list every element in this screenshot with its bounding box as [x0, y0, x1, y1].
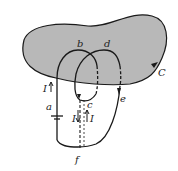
- label-d: d: [104, 38, 110, 49]
- label-e: e: [120, 93, 126, 104]
- arrow-up-mid-icon: [85, 110, 89, 122]
- label-c-curve: C: [158, 67, 166, 78]
- label-b: b: [77, 38, 83, 49]
- label-c-point: c: [87, 99, 93, 110]
- label-current-mid-up: I: [89, 113, 95, 124]
- label-current-left: I: [42, 83, 48, 94]
- label-f: f: [74, 154, 81, 165]
- arrow-down-mid-icon: [76, 110, 80, 122]
- label-a: a: [46, 101, 52, 112]
- ampere-law-diagram: C b d c e a f I I I: [0, 0, 178, 171]
- wire-f-to-a: [57, 140, 78, 147]
- surface-bounded-by-c: [23, 15, 167, 85]
- diagram-canvas: C b d c e a f I I I: [0, 0, 178, 171]
- arrow-up-left-icon: [49, 82, 53, 92]
